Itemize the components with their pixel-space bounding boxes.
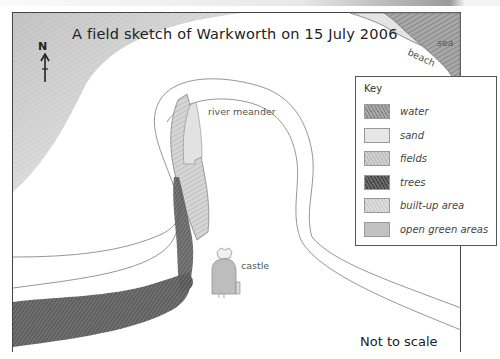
trees-swatch	[364, 175, 390, 190]
north-arrow: N	[38, 40, 52, 84]
key-title: Key	[364, 83, 488, 94]
key-label: sand	[400, 130, 424, 141]
key-label: built-up area	[400, 200, 464, 211]
key-label: open green areas	[400, 224, 488, 235]
key-item-sand: sand	[364, 124, 488, 148]
river-meander-label: river meander	[208, 106, 276, 117]
water-swatch	[364, 104, 390, 119]
key-label: fields	[400, 153, 427, 164]
key-item-built-up-area: built-up area	[364, 194, 488, 218]
key-item-water: water	[364, 100, 488, 124]
key-item-fields: fields	[364, 147, 488, 171]
key-item-open-green-areas: open green areas	[364, 218, 488, 242]
key-label: trees	[400, 177, 426, 188]
sea-label: sea	[437, 37, 454, 48]
key-item-trees: trees	[364, 171, 488, 195]
open-green-areas-swatch	[364, 222, 390, 237]
key-label: water	[400, 106, 429, 117]
built-up-area-swatch	[364, 198, 390, 213]
fields-swatch	[364, 151, 390, 166]
map-key: Key water sand fields trees built-up are…	[355, 76, 497, 246]
scale-note: Not to scale	[360, 334, 438, 349]
sand-swatch	[364, 128, 390, 143]
page-edge-strip	[0, 0, 500, 6]
north-arrow-icon	[38, 52, 52, 96]
castle-label: castle	[241, 260, 269, 271]
map-title: A field sketch of Warkworth on 15 July 2…	[72, 26, 398, 42]
